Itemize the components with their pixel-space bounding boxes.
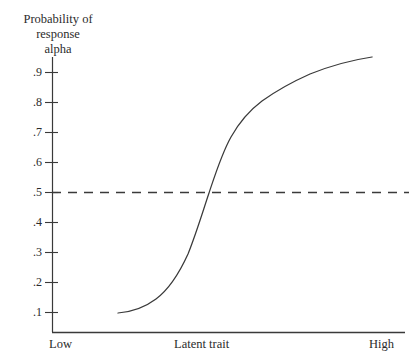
plot-svg [0, 0, 420, 364]
y-tick-label-0.1: .1 [16, 306, 42, 318]
y-tick-label-0.5: .5 [16, 186, 42, 198]
y-tick-label-0.2: .2 [16, 276, 42, 288]
y-tick-label-0.8: .8 [16, 96, 42, 108]
y-tick-label-0.4: .4 [16, 216, 42, 228]
item-characteristic-curve [118, 57, 372, 313]
x-axis-label-title: Latent trait [174, 338, 229, 351]
y-tick-label-0.3: .3 [16, 246, 42, 258]
x-axis-label-high: High [369, 338, 394, 351]
plot-area: .1 .2 .3 .4 .5 .6 .7 .8 .9 Low Latent tr… [0, 0, 420, 364]
x-axis-label-low: Low [49, 338, 72, 351]
figure-canvas: Probability of response alpha [0, 0, 420, 364]
y-tick-label-0.6: .6 [16, 156, 42, 168]
y-tick-label-0.7: .7 [16, 126, 42, 138]
y-tick-label-0.9: .9 [16, 66, 42, 78]
